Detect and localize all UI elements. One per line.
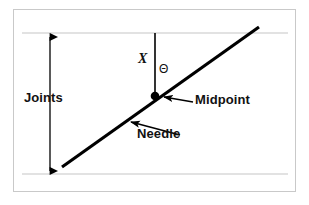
midpoint-dot [151, 92, 160, 101]
midpoint-pointer-arrow [164, 97, 193, 102]
theta-angle-label: Θ [159, 63, 168, 75]
needle-label: Needle [137, 127, 180, 140]
midpoint-label: Midpoint [195, 93, 250, 106]
joints-label: Joints [24, 91, 63, 104]
x-distance-label: X [138, 52, 147, 66]
figure-screenshot: Joints Midpoint Needle X Θ [0, 0, 309, 205]
